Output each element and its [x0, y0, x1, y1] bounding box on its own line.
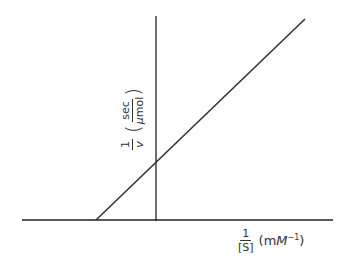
x-unit-exponent: −1: [288, 233, 300, 242]
x-axis-label: 1 [S] (mM−1): [238, 228, 304, 253]
x-label-numerator: 1: [240, 228, 251, 241]
y-label-denominator: v: [133, 141, 145, 148]
y-label-paren-open: (: [123, 125, 143, 133]
x-unit-close: ): [299, 233, 304, 248]
x-label-unit: (mM−1): [259, 233, 305, 248]
y-unit-mol: mol: [133, 97, 146, 118]
y-label-fraction: 1 v: [120, 139, 145, 150]
x-label-denominator: [S]: [238, 241, 254, 253]
x-unit-open: (m: [259, 233, 277, 248]
y-axis-label: 1 v ( sec µmol ): [120, 87, 145, 150]
y-label-numerator: 1: [120, 139, 133, 150]
x-label-fraction: 1 [S]: [238, 228, 254, 253]
y-label-unit-fraction: sec µmol: [120, 97, 145, 125]
y-unit-numerator: sec: [120, 99, 133, 122]
y-label-paren-close: ): [123, 88, 143, 96]
y-unit-denominator: µmol: [133, 97, 145, 125]
y-unit-micro: µ: [133, 117, 146, 124]
x-unit-molar: M: [276, 233, 287, 248]
